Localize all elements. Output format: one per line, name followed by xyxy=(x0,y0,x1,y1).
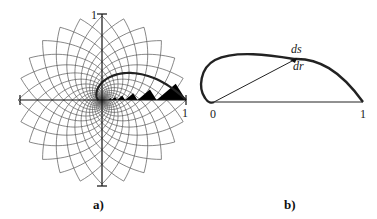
spiral-grid-curve xyxy=(75,16,103,106)
end-label: 1 xyxy=(360,107,366,121)
radius-line xyxy=(214,60,294,102)
filled-triangle xyxy=(125,93,137,100)
spiral-grid-curve xyxy=(18,73,108,101)
x-axis-right-label: 1 xyxy=(182,106,188,120)
filled-triangle xyxy=(157,84,186,100)
spiral-grid-curve xyxy=(75,94,103,184)
origin-label: 0 xyxy=(210,107,216,121)
figure-b-caption: b) xyxy=(284,197,296,212)
spiral-grid-curve xyxy=(101,16,129,106)
figure-a-caption: a) xyxy=(93,197,104,212)
spiral-grid-curve xyxy=(43,41,105,113)
spiral-grid-curve xyxy=(43,97,115,159)
spiral-grid-curve xyxy=(18,99,108,127)
spiral-grid-curve xyxy=(43,41,115,103)
figure-b-arc-diagram: ds dr 0 1 b) xyxy=(201,42,366,212)
ds-label: ds xyxy=(291,42,302,56)
curved-path xyxy=(201,54,363,102)
figure-stage: 1 1 a) ds dr 0 1 b) xyxy=(0,0,377,219)
spiral-grid-curve xyxy=(101,94,129,184)
figure-a-spiral-grid: 1 1 a) xyxy=(18,8,188,212)
spiral-grid-curve xyxy=(43,88,105,160)
dr-label: dr xyxy=(293,59,304,73)
spiral-grid-curve xyxy=(90,97,162,159)
spiral-grid-curve xyxy=(96,99,186,127)
y-axis-top-label: 1 xyxy=(91,8,97,22)
